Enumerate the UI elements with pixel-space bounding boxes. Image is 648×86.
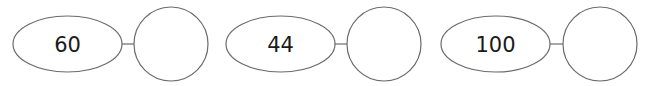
bond-group-3: 100 bbox=[441, 7, 637, 81]
answer-circle[interactable] bbox=[347, 7, 421, 81]
bond-group-2: 44 bbox=[226, 7, 421, 81]
number-value: 100 bbox=[475, 33, 515, 57]
bond-group-1: 60 bbox=[13, 7, 208, 81]
answer-circle[interactable] bbox=[563, 7, 637, 81]
number-bond-diagram: 60 44 100 bbox=[0, 0, 648, 86]
number-value: 44 bbox=[267, 33, 294, 57]
number-value: 60 bbox=[54, 33, 81, 57]
answer-circle[interactable] bbox=[134, 7, 208, 81]
